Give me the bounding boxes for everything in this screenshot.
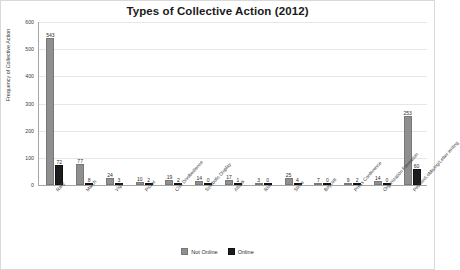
- bar-group: 140: [367, 22, 397, 185]
- bar-value-label: 25: [286, 173, 292, 178]
- bar-group: 171: [219, 22, 249, 185]
- x-tick-slot: Civil Disobedience: [159, 185, 189, 247]
- x-tick-slot: Rally: [40, 185, 70, 247]
- bar-value-label: 9: [347, 178, 350, 183]
- bar-value-label: 19: [167, 175, 173, 180]
- legend-swatch: [228, 248, 235, 255]
- bar-value-label: 543: [46, 33, 54, 38]
- bar-value-label: 7: [317, 178, 320, 183]
- bar-value-label: 60: [414, 164, 420, 169]
- bar-group: 30: [248, 22, 278, 185]
- legend-item[interactable]: Not Online: [181, 248, 217, 255]
- bar-value-label: 253: [403, 111, 411, 116]
- bar-not-online[interactable]: 25: [285, 178, 293, 185]
- bar-value-label: 14: [196, 176, 202, 181]
- y-tick-300: 300: [25, 101, 34, 107]
- x-tick-slot: Vigil: [100, 185, 130, 247]
- bar-groups: 5437277824310219214017130254709214025360: [38, 22, 427, 185]
- x-tick-slot: Picket: [129, 185, 159, 247]
- x-tick-label: Riot: [263, 183, 272, 193]
- bar-group: 254: [278, 22, 308, 185]
- legend-swatch: [181, 248, 188, 255]
- x-tick-slot: Symbolic Display: [189, 185, 219, 247]
- x-tick-slot: Boycott: [308, 185, 338, 247]
- chart-title: Types of Collective Action (2012): [0, 5, 435, 17]
- bar-group: 54372: [40, 22, 70, 185]
- bar-group: 70: [308, 22, 338, 185]
- x-tick-slot: Attack: [219, 185, 249, 247]
- legend-label: Online: [238, 249, 254, 255]
- y-tick-500: 500: [25, 46, 34, 52]
- y-tick-100: 100: [25, 155, 34, 161]
- legend: Not OnlineOnline: [0, 248, 435, 255]
- bar-value-label: 24: [107, 173, 113, 178]
- x-tick-slot: March: [70, 185, 100, 247]
- bar-not-online[interactable]: 253: [404, 116, 412, 185]
- bar-value-label: 3: [257, 178, 260, 183]
- bar-value-label: 72: [57, 160, 63, 165]
- bar-value-label: 17: [226, 175, 232, 180]
- y-axis-tick-labels: 0100200300400500600: [8, 22, 36, 185]
- y-tick-200: 200: [25, 128, 34, 134]
- bar-value-label: 10: [137, 177, 143, 182]
- plot-area: 5437277824310219214017130254709214025360: [38, 22, 427, 185]
- bar-group: 778: [70, 22, 100, 185]
- bar-group: 243: [100, 22, 130, 185]
- bar-group: 140: [189, 22, 219, 185]
- bar-group: 192: [159, 22, 189, 185]
- bar-group: 92: [338, 22, 368, 185]
- legend-item[interactable]: Online: [228, 248, 254, 255]
- y-tick-400: 400: [25, 73, 34, 79]
- y-tick-0: 0: [31, 182, 34, 188]
- bar-value-label: 14: [375, 176, 381, 181]
- bar-not-online[interactable]: 77: [76, 164, 84, 185]
- x-tick-slot: Press Conference: [338, 185, 368, 247]
- bar-group: 102: [129, 22, 159, 185]
- x-tick-slot: Petition/Lobbying/Letter writing: [397, 185, 427, 247]
- x-tick-slot: Organization Formation: [367, 185, 397, 247]
- y-axis-title: Frequency of Collective Action: [5, 5, 11, 125]
- x-axis-tick-labels: RallyMarchVigilPicketCivil DisobedienceS…: [38, 185, 427, 247]
- x-tick-slot: Riot: [248, 185, 278, 247]
- legend-label: Not Online: [191, 249, 217, 255]
- y-tick-600: 600: [25, 19, 34, 25]
- bar-not-online[interactable]: 543: [46, 38, 54, 186]
- x-tick-slot: Strike: [278, 185, 308, 247]
- bar-value-label: 77: [77, 159, 83, 164]
